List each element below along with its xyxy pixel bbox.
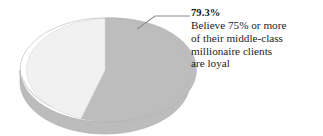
callout-description-line-1: Believe 75% or more (191, 19, 323, 32)
callout-text-block: 79.3% Believe 75% or more of their middl… (191, 6, 323, 70)
callout-description-line-4: are loyal (191, 57, 323, 70)
callout-description-line-2: of their middle-class (191, 32, 323, 45)
callout-percent-value: 79.3% (191, 6, 323, 19)
pie-chart-figure: 79.3% Believe 75% or more of their middl… (0, 0, 323, 136)
callout-description-line-3: millionaire clients (191, 45, 323, 58)
